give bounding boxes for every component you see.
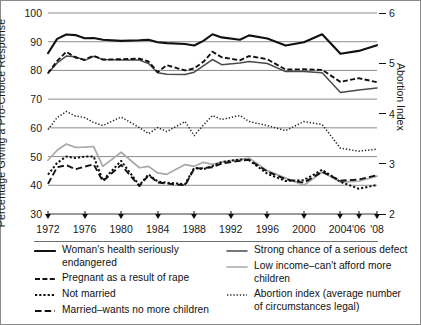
y-tick-label-left: 80 bbox=[12, 65, 42, 76]
y-tick-text-right: 6 bbox=[389, 7, 395, 19]
y-tick-label-left: 70 bbox=[12, 94, 42, 105]
legend-item-label: Woman's health seriously endangered bbox=[62, 244, 219, 269]
legend-item[interactable]: Pregnant as a result of rape bbox=[34, 272, 219, 285]
y-tick-label-right: 3 bbox=[379, 159, 395, 170]
figure-container: Percentage Giving a Pro-Choice Response … bbox=[0, 0, 421, 325]
x-tick-label: '06 bbox=[352, 224, 366, 235]
x-tick-stem bbox=[230, 211, 231, 216]
chart-canvas bbox=[48, 13, 377, 214]
x-tick-stem bbox=[194, 211, 195, 216]
legend-item-label: Strong chance of a serious defect bbox=[254, 244, 407, 257]
x-tick-stem bbox=[377, 211, 378, 216]
y-tick-text-right: 5 bbox=[389, 57, 395, 69]
x-tick-label: '08 bbox=[370, 224, 384, 235]
y-tick-mark-right bbox=[379, 13, 386, 14]
y-axis-left-title: Percentage Giving a Pro-Choice Response bbox=[0, 0, 9, 15]
y-tick-label-left: 40 bbox=[12, 180, 42, 191]
legend-line-swatch bbox=[34, 244, 56, 257]
y-tick-label-left: 50 bbox=[12, 152, 42, 163]
legend-column-right: Strong chance of a serious defectLow inc… bbox=[226, 244, 411, 316]
x-tick-stem bbox=[267, 211, 268, 216]
legend-item[interactable]: Not married bbox=[34, 288, 219, 301]
x-tick-label: 1984 bbox=[146, 224, 169, 235]
x-tick-stem bbox=[303, 211, 304, 216]
legend-line-swatch bbox=[34, 288, 56, 301]
legend-item-label: Not married bbox=[62, 288, 116, 301]
x-axis-ticks: 197219761980198419881992199620002004'06'… bbox=[48, 214, 377, 236]
legend-item-label: Married–wants no more children bbox=[62, 304, 209, 317]
x-tick-stem bbox=[121, 211, 122, 216]
legend-line-swatch bbox=[34, 304, 56, 317]
legend-item-label: Abortion index (average number of circum… bbox=[254, 288, 411, 313]
y-tick-label-left: 60 bbox=[12, 123, 42, 134]
legend-item[interactable]: Strong chance of a serious defect bbox=[226, 244, 411, 257]
legend-item[interactable]: Married–wants no more children bbox=[34, 304, 219, 317]
x-tick-stem bbox=[358, 211, 359, 216]
legend-item[interactable]: Low income–can't afford more children bbox=[226, 260, 411, 285]
series-line bbox=[48, 157, 377, 189]
y-axis-left-ticks: 10090807060504030 bbox=[9, 13, 42, 214]
x-tick-label: 1988 bbox=[183, 224, 206, 235]
legend-line-swatch bbox=[226, 244, 248, 257]
y-tick-mark-right bbox=[379, 214, 386, 215]
legend-line-swatch bbox=[34, 272, 56, 285]
x-tick-stem bbox=[48, 211, 49, 216]
y-tick-text-right: 4 bbox=[389, 108, 395, 120]
y-axis-right-ticks: 65432 bbox=[379, 13, 415, 214]
y-tick-mark-right bbox=[379, 163, 386, 164]
series-line bbox=[48, 144, 377, 185]
y-tick-mark-right bbox=[379, 113, 386, 114]
x-tick-label: 1976 bbox=[73, 224, 96, 235]
y-tick-label-left: 30 bbox=[12, 209, 42, 220]
y-tick-label-left: 90 bbox=[12, 37, 42, 48]
x-tick-label: 1980 bbox=[109, 224, 132, 235]
y-tick-label-right: 4 bbox=[379, 109, 395, 120]
legend-column-left: Woman's health seriously endangeredPregn… bbox=[34, 244, 219, 320]
y-tick-label-right: 2 bbox=[379, 209, 395, 220]
y-tick-label-right: 6 bbox=[379, 8, 395, 19]
legend-item[interactable]: Abortion index (average number of circum… bbox=[226, 288, 411, 313]
y-tick-label-left: 100 bbox=[12, 8, 42, 19]
legend-line-swatch bbox=[226, 288, 248, 301]
legend-line-swatch bbox=[226, 260, 248, 273]
y-tick-mark-right bbox=[379, 63, 386, 64]
x-tick-label: 1972 bbox=[36, 224, 59, 235]
x-tick-label: 2000 bbox=[292, 224, 315, 235]
plot-area bbox=[48, 13, 377, 214]
y-tick-text-right: 2 bbox=[389, 208, 395, 220]
legend-item-label: Low income–can't afford more children bbox=[254, 260, 411, 285]
series-line bbox=[48, 111, 377, 151]
x-tick-stem bbox=[84, 211, 85, 216]
legend-divider bbox=[34, 241, 378, 242]
y-tick-text-right: 3 bbox=[389, 158, 395, 170]
legend: Woman's health seriously endangeredPregn… bbox=[34, 244, 410, 320]
x-tick-label: 2004 bbox=[329, 224, 352, 235]
x-tick-stem bbox=[340, 211, 341, 216]
x-tick-stem bbox=[157, 211, 158, 216]
legend-item[interactable]: Woman's health seriously endangered bbox=[34, 244, 219, 269]
legend-item-label: Pregnant as a result of rape bbox=[62, 272, 189, 285]
x-tick-label: 1992 bbox=[219, 224, 242, 235]
y-tick-label-right: 5 bbox=[379, 58, 395, 69]
x-tick-label: 1996 bbox=[256, 224, 279, 235]
